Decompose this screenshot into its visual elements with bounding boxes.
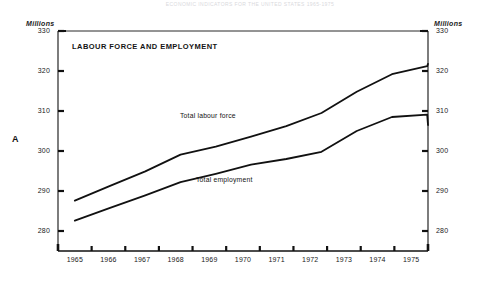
series-line-total-employment: [75, 115, 428, 221]
x-tick-label: 1968: [161, 256, 191, 263]
y-tick-label-left: 290: [26, 187, 50, 194]
y-tick-label-left: 320: [26, 67, 50, 74]
axis-frame: [58, 31, 428, 251]
y-tick-label-left: 310: [26, 107, 50, 114]
figure-panel: ECONOMIC INDICATORS FOR THE UNITED STATE…: [0, 0, 477, 289]
x-tick-label: 1973: [329, 256, 359, 263]
x-tick-label: 1966: [93, 256, 123, 263]
y-tick-label-right: 290: [436, 187, 460, 194]
y-tick-label-left: 330: [26, 27, 50, 34]
chart-canvas: [0, 0, 477, 289]
y-tick-label-right: 310: [436, 107, 460, 114]
y-tick-label-right: 320: [436, 67, 460, 74]
x-tick-label: 1967: [127, 256, 157, 263]
y-tick-label-right: 300: [436, 147, 460, 154]
x-tick-label: 1971: [262, 256, 292, 263]
x-tick-label: 1975: [396, 256, 426, 263]
y-tick-label-right: 330: [436, 27, 460, 34]
y-tick-label-right: 280: [436, 227, 460, 234]
x-tick-label: 1972: [295, 256, 325, 263]
series-line-total-labour-force: [75, 64, 428, 201]
x-tick-label: 1969: [194, 256, 224, 263]
x-tick-label: 1965: [60, 256, 90, 263]
plot-area: [75, 64, 428, 221]
x-tick-label: 1974: [363, 256, 393, 263]
y-tick-label-left: 300: [26, 147, 50, 154]
y-tick-label-left: 280: [26, 227, 50, 234]
x-tick-label: 1970: [228, 256, 258, 263]
